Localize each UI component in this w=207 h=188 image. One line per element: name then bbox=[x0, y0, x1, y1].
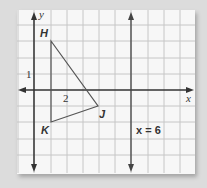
line-arrow-up-icon bbox=[128, 12, 134, 20]
y-tick-label: 1 bbox=[26, 68, 32, 80]
y-axis-arrow-down-icon bbox=[31, 164, 37, 172]
x-tick-label: 2 bbox=[63, 92, 69, 104]
vertex-label-k: K bbox=[41, 124, 49, 136]
x-axis-arrow-left-icon bbox=[18, 87, 26, 93]
vertex-label-h: H bbox=[40, 27, 48, 39]
y-axis-label: y bbox=[39, 8, 44, 20]
y-axis-arrow-up-icon bbox=[31, 12, 37, 20]
x-axis-label: x bbox=[186, 92, 191, 104]
line-arrow-down-icon bbox=[128, 164, 134, 172]
line-equation-label: x = 6 bbox=[136, 124, 161, 136]
triangle-hjk bbox=[51, 41, 98, 122]
vertex-label-j: J bbox=[99, 108, 105, 120]
coordinate-plane bbox=[0, 0, 207, 188]
